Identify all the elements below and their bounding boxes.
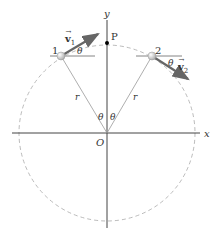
particle-1-label: 1 — [52, 45, 58, 56]
velocity-1-vector-mark: → — [66, 28, 72, 36]
x-axis-label: x — [204, 128, 210, 139]
angle-2-label: θ — [168, 58, 174, 68]
center-angle-1: θ — [98, 112, 104, 122]
circular-motion-diagram: y x O P 1 2 v1 → v2 → θ θ r r θ θ — [0, 0, 218, 240]
angle-1-label: θ — [77, 46, 83, 56]
point-p — [105, 41, 109, 45]
point-p-label: P — [111, 31, 118, 42]
radius-label-1: r — [75, 92, 80, 102]
velocity-2-vector-mark: → — [179, 56, 185, 64]
radius-label-2: r — [133, 92, 138, 102]
origin-label: O — [96, 137, 104, 148]
center-angle-2: θ — [110, 112, 116, 122]
y-axis-label: y — [103, 8, 110, 19]
particle-2-label: 2 — [155, 45, 161, 56]
